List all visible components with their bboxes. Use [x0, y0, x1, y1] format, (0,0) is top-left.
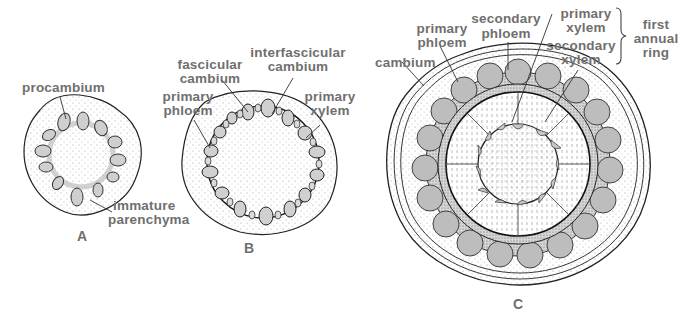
label-immature-parenchyma-line1: immature [113, 199, 175, 213]
label-b-primary-xylem-line1: primary [300, 90, 360, 104]
label-c-primary-phloem-line2: phloem [412, 36, 472, 50]
label-first-annual-ring-line1: first [628, 18, 684, 32]
label-procambium: procambium [22, 81, 105, 95]
label-c-primary-xylem-line1: primary [556, 7, 616, 21]
label-immature-parenchyma-line2: parenchyma [108, 213, 190, 227]
label-secondary-xylem-line1: secondary [545, 39, 617, 53]
label-b-primary-phloem-line2: phloem [158, 104, 218, 118]
label-first-annual-ring-line3: ring [628, 46, 684, 60]
panel-a-drawing [24, 95, 141, 215]
label-b-primary-phloem-line1: primary [158, 90, 218, 104]
label-first-annual-ring-line2: annual [628, 32, 684, 46]
label-secondary-phloem-line2: phloem [470, 27, 542, 41]
label-interfascicular-cambium-line1: interfascicular [248, 46, 348, 60]
label-c-primary-xylem-line2: xylem [556, 21, 616, 35]
label-fascicular-cambium-line2: cambium [170, 72, 250, 86]
panel-c-caption: C [513, 296, 523, 312]
label-secondary-xylem-line2: xylem [545, 53, 617, 67]
label-secondary-phloem-line1: secondary [470, 12, 542, 26]
panel-a-caption: A [77, 228, 87, 244]
label-fascicular-cambium-line1: fascicular [170, 58, 250, 72]
label-interfascicular-cambium-line2: cambium [248, 60, 348, 74]
label-cambium: cambium [375, 56, 436, 70]
label-b-primary-xylem-line2: xylem [300, 104, 360, 118]
panel-b-caption: B [244, 240, 254, 256]
label-c-primary-phloem-line1: primary [412, 22, 472, 36]
stem-cross-section-diagram: procambium immature parenchyma A fascicu… [0, 0, 687, 321]
